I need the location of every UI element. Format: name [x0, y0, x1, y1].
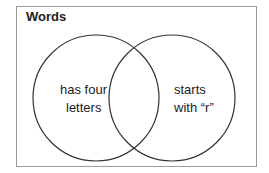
set-label-starts-with-r: starts with “r”	[174, 81, 214, 117]
diagram-title: Words	[26, 9, 66, 24]
label-line: with “r”	[174, 99, 214, 117]
circle-starts-with-r	[109, 35, 235, 161]
label-line: has four	[60, 81, 107, 99]
label-line: letters	[60, 99, 107, 117]
venn-circles	[0, 0, 269, 173]
label-line: starts	[174, 81, 214, 99]
set-label-four-letters: has four letters	[60, 81, 107, 117]
